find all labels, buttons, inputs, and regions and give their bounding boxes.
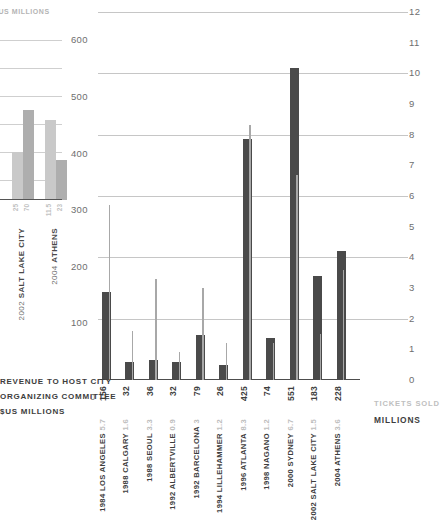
tickets-sold-line[interactable] — [296, 175, 297, 380]
tickets-value-label: 5.7 — [98, 419, 107, 431]
revenue-value-label: 228 — [334, 386, 343, 401]
category-label: 1996 ATLANTA 8.3 — [240, 419, 248, 491]
y-axis-right-tick: 8 — [409, 129, 431, 140]
revenue-value-label: 79 — [193, 386, 202, 396]
revenue-value-label: 74 — [263, 386, 272, 396]
category-name: 1992 ALBERTVILLE — [168, 431, 177, 510]
x-axis-label-group: 261994 LILLEHAMMER 1.2 — [215, 386, 239, 511]
tickets-value-label: 1.2 — [215, 419, 224, 431]
category-name: 1992 BARCELONA — [192, 424, 201, 499]
bar-group[interactable] — [333, 12, 357, 380]
category-name: 2004 ATHENS — [333, 431, 342, 487]
bar-group[interactable] — [309, 12, 333, 380]
category-name: 1998 NAGANO — [262, 431, 271, 490]
category-label: 2004 ATHENS 3.6 — [334, 419, 342, 486]
bar-group[interactable] — [98, 12, 122, 380]
x-axis-label-group: 4251996 ATLANTA 8.3 — [239, 386, 263, 511]
tickets-sold-line[interactable] — [155, 279, 156, 380]
x-axis-label-group: 1832002 SALT LAKE CITY 1.5 — [309, 386, 333, 511]
tickets-sold-line[interactable] — [226, 343, 227, 380]
bar-group[interactable] — [262, 12, 286, 380]
tickets-sold-line[interactable] — [320, 334, 321, 380]
bar-group[interactable] — [239, 12, 263, 380]
tickets-sold-line[interactable] — [202, 288, 203, 380]
tickets-sold-line[interactable] — [132, 331, 133, 380]
category-name: 1994 LILLEHAMMER — [215, 431, 224, 513]
revenue-value-label: 32 — [169, 386, 178, 396]
right-axis-caption-1: TICKETS SOLD — [374, 399, 440, 408]
tickets-sold-line[interactable] — [343, 270, 344, 380]
tickets-value-label: 0.9 — [168, 419, 177, 431]
x-axis-label-group: 741998 NAGANO 1.2 — [262, 386, 286, 511]
y-axis-left-tick: 500 — [48, 91, 88, 102]
category-label: 1988 CALGARY 1.6 — [122, 419, 130, 494]
bar-group[interactable] — [168, 12, 192, 380]
right-axis-caption-2: MILLIONS — [374, 415, 421, 425]
x-axis-label-group: 1561984 LOS ANGELES 5.7 — [98, 386, 122, 511]
tickets-value-label: 1.6 — [121, 419, 130, 431]
x-axis-label-group: 361988 SEOUL 3.3 — [145, 386, 169, 511]
y-axis-left-tick: 400 — [48, 148, 88, 159]
bar-group[interactable] — [145, 12, 169, 380]
tickets-sold-line[interactable] — [273, 343, 274, 380]
category-label: 2002 SALT LAKE CITY 1.5 — [310, 419, 318, 520]
y-axis-left-tick: 600 — [48, 34, 88, 45]
tickets-value-label: 3.6 — [333, 419, 342, 431]
category-name: 1988 CALGARY — [121, 431, 130, 494]
bar-group[interactable] — [121, 12, 145, 380]
left-axis-caption-3: $US MILLIONS — [0, 407, 65, 416]
y-axis-right-tick: 1 — [409, 343, 431, 354]
x-axis-labels: 1561984 LOS ANGELES 5.7321988 CALGARY 1.… — [98, 386, 360, 511]
y-axis-right-tick: 6 — [409, 190, 431, 201]
revenue-value-label: 156 — [99, 386, 108, 401]
x-axis-label-group: 321992 ALBERTVILLE 0.9 — [168, 386, 192, 511]
category-label: 2000 SYDNEY 6.7 — [287, 419, 295, 487]
y-axis-left-tick-zero: 0 — [90, 391, 96, 402]
y-axis-left-tick: 100 — [48, 317, 88, 328]
revenue-value-label: 32 — [122, 386, 131, 396]
category-label: 1992 BARCELONA 3 — [193, 419, 201, 498]
y-axis-right-tick: 12 — [409, 6, 431, 17]
tickets-sold-line[interactable] — [249, 125, 250, 380]
category-name: 2000 SYDNEY — [286, 431, 295, 488]
revenue-value-label: 36 — [146, 386, 155, 396]
category-label: 1984 LOS ANGELES 5.7 — [99, 419, 107, 512]
x-axis-label-group: 5512000 SYDNEY 6.7 — [286, 386, 310, 511]
x-axis-label-group: 321988 CALGARY 1.6 — [121, 386, 145, 511]
y-axis-right-tick: 5 — [409, 221, 431, 232]
bar-group[interactable] — [286, 12, 310, 380]
revenue-value-label: 26 — [216, 386, 225, 396]
tickets-sold-line[interactable] — [179, 352, 180, 380]
category-label: 1988 SEOUL 3.3 — [146, 419, 154, 482]
category-label: 1994 LILLEHAMMER 1.2 — [216, 419, 224, 513]
tickets-value-label: 1.2 — [262, 419, 271, 431]
y-axis-right-tick: 10 — [409, 67, 431, 78]
y-axis-left-tick: 200 — [48, 261, 88, 272]
revenue-value-label: 183 — [310, 386, 319, 401]
x-axis-label-group: 2282004 ATHENS 3.6 — [333, 386, 357, 511]
tickets-value-label: 3.3 — [145, 419, 154, 431]
category-label: 1998 NAGANO 1.2 — [263, 419, 271, 490]
bar-group[interactable] — [192, 12, 216, 380]
y-axis-right-tick: 2 — [409, 313, 431, 324]
left-axis-caption-1: REVENUE TO HOST CITY — [0, 377, 112, 386]
category-name: 1988 SEOUL — [145, 431, 154, 482]
revenue-value-label: 425 — [240, 386, 249, 401]
y-axis-right-tick: 3 — [409, 282, 431, 293]
tickets-value-label: 8.3 — [239, 419, 248, 431]
y-axis-right-tick: 9 — [409, 98, 431, 109]
category-name: 1984 LOS ANGELES — [98, 431, 107, 512]
tickets-sold-line[interactable] — [109, 205, 110, 380]
tickets-value-label: 6.7 — [286, 419, 295, 431]
y-axis-right-tick: 11 — [409, 37, 431, 48]
revenue-value-label: 551 — [287, 386, 296, 401]
category-label: 1992 ALBERTVILLE 0.9 — [169, 419, 177, 510]
y-axis-left-tick: 300 — [48, 204, 88, 215]
y-axis-right-tick: 7 — [409, 159, 431, 170]
y-axis-right-tick: 0 — [409, 374, 431, 385]
bar-group[interactable] — [215, 12, 239, 380]
plot-area — [98, 12, 356, 380]
y-axis-right-tick: 4 — [409, 251, 431, 262]
tickets-value-label: 3 — [192, 419, 201, 424]
